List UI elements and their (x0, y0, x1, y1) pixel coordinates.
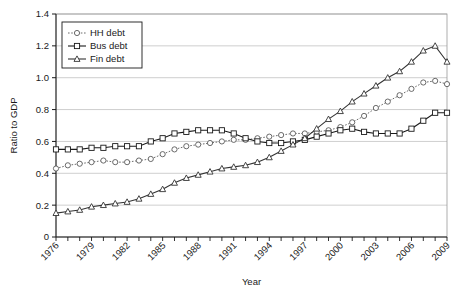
x-axis-tick-label: 1997 (287, 240, 310, 263)
data-point-marker (136, 144, 141, 149)
data-point-marker (196, 142, 201, 147)
data-point-marker (231, 137, 236, 142)
data-point-marker (160, 136, 165, 141)
data-point-marker (338, 128, 343, 133)
data-point-marker (148, 156, 153, 161)
legend-label-1: Bus debt (90, 40, 128, 51)
data-point-marker (397, 131, 402, 136)
data-point-marker (113, 160, 118, 165)
data-point-marker (207, 128, 212, 133)
x-axis-tick-label: 1988 (180, 240, 203, 263)
data-point-marker (444, 110, 449, 115)
data-point-marker (409, 126, 414, 131)
x-axis-tick-label: 1976 (38, 240, 61, 263)
data-point-marker (136, 158, 141, 163)
x-axis-tick-label: 2000 (323, 240, 346, 263)
data-point-marker (148, 139, 153, 144)
data-point-marker (290, 131, 295, 136)
y-axis-tick-label: 0 (44, 231, 49, 242)
data-point-marker (267, 140, 272, 145)
x-axis-tick-label: 2009 (429, 240, 452, 263)
data-point-marker (172, 131, 177, 136)
data-point-marker (160, 152, 165, 157)
data-point-marker (255, 139, 260, 144)
y-axis-tick-label: 0.4 (36, 168, 49, 179)
data-point-marker (89, 145, 94, 150)
legend: HH debtBus debtFin debt (62, 22, 142, 68)
y-axis-tick-label: 1.0 (36, 72, 49, 83)
data-point-marker (172, 147, 177, 152)
y-axis-tick-label: 1.2 (36, 40, 49, 51)
data-point-marker (65, 163, 70, 168)
data-point-marker (421, 118, 426, 123)
data-point-marker (397, 93, 402, 98)
data-point-marker (385, 99, 390, 104)
y-axis-tick-label: 0.2 (36, 200, 49, 211)
x-axis-title: Year (242, 276, 261, 287)
data-point-marker (314, 134, 319, 139)
legend-marker-1 (74, 43, 79, 48)
x-axis-tick-label: 1985 (145, 240, 168, 263)
data-point-marker (373, 131, 378, 136)
data-point-marker (53, 166, 58, 171)
data-point-marker (350, 126, 355, 131)
data-point-marker (231, 131, 236, 136)
data-point-marker (101, 145, 106, 150)
data-point-marker (101, 158, 106, 163)
data-point-marker (350, 120, 355, 125)
data-point-marker (279, 140, 284, 145)
legend-marker-0 (74, 30, 79, 35)
chart-container: 00.20.40.60.81.01.21.4197619791982198519… (0, 0, 462, 294)
x-axis-tick-label: 1982 (109, 240, 132, 263)
y-axis-tick-label: 0.6 (36, 136, 49, 147)
data-point-marker (89, 160, 94, 165)
data-point-marker (361, 113, 366, 118)
data-point-marker (219, 128, 224, 133)
data-point-marker (124, 160, 129, 165)
data-point-marker (267, 134, 272, 139)
line-chart: 00.20.40.60.81.01.21.4197619791982198519… (0, 0, 462, 294)
y-axis-tick-label: 1.4 (36, 8, 49, 19)
x-axis-tick-label: 1991 (216, 240, 239, 263)
legend-label-0: HH debt (90, 27, 125, 38)
data-point-marker (279, 132, 284, 137)
y-axis-tick-label: 0.8 (36, 104, 49, 115)
data-point-marker (207, 140, 212, 145)
data-point-marker (113, 144, 118, 149)
data-point-marker (77, 161, 82, 166)
data-point-marker (433, 110, 438, 115)
data-point-marker (53, 147, 58, 152)
x-axis-tick-label: 1979 (74, 240, 97, 263)
legend-label-2: Fin debt (90, 53, 125, 64)
data-point-marker (74, 43, 79, 48)
data-point-marker (326, 131, 331, 136)
data-point-marker (77, 147, 82, 152)
data-point-marker (74, 30, 79, 35)
data-point-marker (196, 128, 201, 133)
data-point-marker (421, 80, 426, 85)
data-point-marker (361, 129, 366, 134)
data-point-marker (385, 131, 390, 136)
data-point-marker (124, 144, 129, 149)
data-point-marker (409, 86, 414, 91)
data-point-marker (219, 139, 224, 144)
x-axis-tick-label: 2006 (394, 240, 417, 263)
x-axis-tick-label: 2003 (358, 240, 381, 263)
data-point-marker (65, 147, 70, 152)
data-point-marker (184, 144, 189, 149)
data-point-marker (373, 105, 378, 110)
data-point-marker (444, 81, 449, 86)
data-point-marker (433, 78, 438, 83)
data-point-marker (243, 136, 248, 141)
data-point-marker (184, 129, 189, 134)
x-axis-tick-label: 1994 (251, 240, 274, 263)
y-axis-title: Ratio to GDP (8, 98, 19, 154)
